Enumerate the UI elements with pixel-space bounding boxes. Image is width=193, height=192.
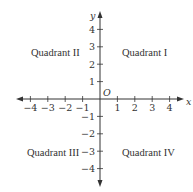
coordinate-plane: −4−3−2−11234 4321−1−2−3−4 x y O Quadrant…	[0, 0, 193, 192]
y-tick-label: 1	[89, 76, 95, 87]
quadrant-4-label: Quadrant IV	[122, 147, 175, 158]
y-tick-label: 3	[89, 41, 95, 52]
y-tick-label: −2	[81, 128, 95, 139]
x-tick-label: −4	[23, 102, 37, 113]
quadrant-3-label: Quadrant III	[27, 147, 80, 158]
y-tick-label: −1	[81, 111, 95, 122]
origin-label: O	[103, 87, 111, 98]
y-tick-label: −3	[81, 146, 95, 157]
y-tick-label: 2	[89, 59, 95, 70]
y-tick-label: 4	[89, 24, 95, 35]
quadrant-2-label: Quadrant II	[31, 47, 80, 58]
y-axis-label: y	[89, 10, 96, 21]
x-tick-label: 4	[167, 102, 173, 113]
y-tick-label: −4	[81, 163, 95, 174]
x-tick-label: 3	[149, 102, 155, 113]
x-axis-right-arrow-icon	[177, 97, 184, 102]
y-axis-bottom-arrow-icon	[98, 180, 103, 187]
x-tick-label: −2	[58, 102, 72, 113]
x-axis-left-arrow-icon	[16, 97, 23, 102]
y-axis-top-arrow-icon	[98, 11, 103, 18]
x-tick-label: 1	[114, 102, 120, 113]
x-axis-label: x	[186, 96, 192, 107]
x-tick-label: −3	[41, 102, 55, 113]
x-tick-label: 2	[132, 102, 138, 113]
quadrant-1-label: Quadrant I	[122, 47, 168, 58]
